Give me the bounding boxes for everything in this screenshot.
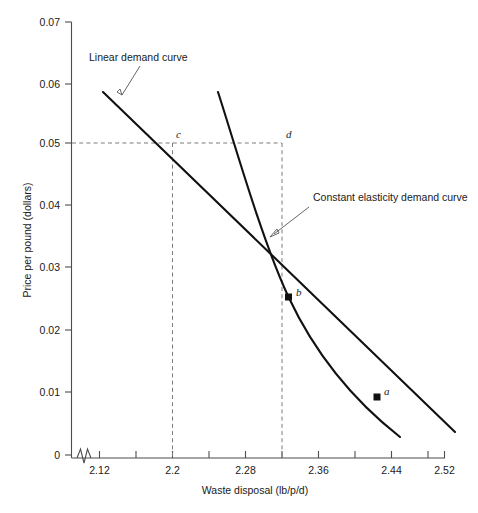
point-marker-b	[285, 294, 292, 301]
arrowhead-linear-curve	[117, 89, 122, 95]
linear-demand-curve	[103, 92, 455, 432]
point-label-d: d	[286, 128, 292, 140]
y-tick-label-0.05: 0.05	[40, 137, 61, 149]
arrowhead-elasticity-curve	[270, 229, 279, 237]
point-label-b: b	[296, 286, 302, 298]
x-tick-labels: 2.12 2.2 2.28 2.36 2.44 2.52	[89, 464, 455, 476]
y-tick-label-0.06: 0.06	[40, 78, 61, 90]
linear-demand-curve-label: Linear demand curve	[89, 51, 188, 63]
y-axis-title: Price per pound (dollars)	[21, 183, 33, 298]
y-tick-label-0.03: 0.03	[40, 261, 61, 273]
x-axis-break-icon	[77, 449, 91, 463]
chart-canvas: 0.07 0.06 0.05 0.04 0.03 0.02 0.01 0 2.1…	[0, 0, 478, 513]
x-tick-label-2.12: 2.12	[89, 464, 110, 476]
x-tick-label-2.2: 2.2	[165, 464, 180, 476]
constant-elasticity-demand-curve-label: Constant elasticity demand curve	[313, 191, 468, 203]
y-axis	[65, 22, 72, 458]
data-curves	[103, 92, 455, 437]
x-axis	[72, 449, 446, 463]
y-tick-label-0.07: 0.07	[40, 16, 61, 28]
x-tick-label-2.28: 2.28	[235, 464, 256, 476]
leader-elasticity-curve	[274, 207, 309, 234]
demand-curve-figure: 0.07 0.06 0.05 0.04 0.03 0.02 0.01 0 2.1…	[0, 0, 478, 513]
leader-linear-curve	[122, 66, 140, 95]
y-tick-label-0.04: 0.04	[40, 199, 61, 211]
x-axis-title: Waste disposal (lb/p/d)	[202, 484, 308, 496]
y-tick-label-0: 0	[54, 449, 60, 461]
y-tick-label-0.01: 0.01	[40, 386, 61, 398]
point-label-a: a	[384, 385, 390, 397]
y-tick-label-0.02: 0.02	[40, 324, 61, 336]
x-tick-label-2.36: 2.36	[308, 464, 329, 476]
point-label-c: c	[176, 128, 181, 140]
annotation-leaders	[117, 66, 309, 237]
constant-elasticity-demand-curve	[218, 92, 400, 437]
y-tick-labels: 0.07 0.06 0.05 0.04 0.03 0.02 0.01 0	[40, 16, 61, 461]
point-marker-a	[374, 394, 381, 401]
x-tick-label-2.52: 2.52	[434, 464, 455, 476]
x-tick-label-2.44: 2.44	[381, 464, 402, 476]
guide-lines	[72, 143, 282, 458]
